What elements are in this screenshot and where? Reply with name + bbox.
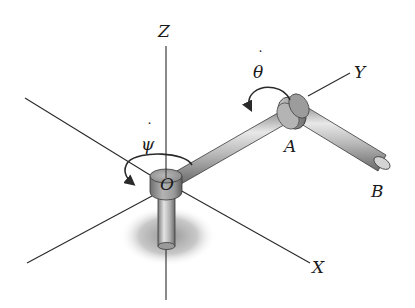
- y-axis: [308, 73, 350, 96]
- svg-text:˙: ˙: [146, 121, 153, 137]
- arm-OA: [175, 110, 289, 184]
- svg-text:θ: θ: [253, 62, 263, 82]
- label-end-B: B: [370, 181, 384, 201]
- rod-assembly-diagram: Z Y X O A B ψ ˙ θ ˙: [0, 0, 415, 308]
- svg-text:ψ: ψ: [141, 134, 155, 154]
- label-y-axis: Y: [354, 62, 367, 82]
- axis-upper-left: [25, 98, 150, 175]
- label-x-axis: X: [310, 257, 325, 277]
- label-z-axis: Z: [157, 21, 171, 41]
- svg-text:˙: ˙: [257, 49, 264, 65]
- vertical-post: [158, 196, 175, 250]
- label-joint-A: A: [282, 136, 296, 156]
- label-psi-dot: ψ ˙: [141, 121, 155, 154]
- label-origin-O: O: [160, 174, 174, 194]
- label-theta-dot: θ ˙: [253, 49, 264, 82]
